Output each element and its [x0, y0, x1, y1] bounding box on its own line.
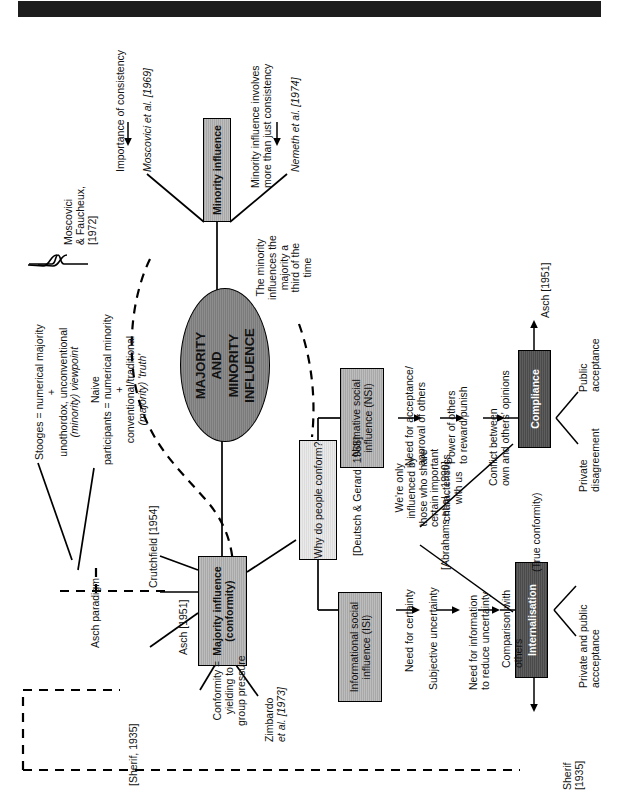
outcome-importance-of-consistency: Importance of consistency [115, 50, 127, 172]
citation-moscovici-1969: Moscovici et al. [1969] [142, 68, 154, 172]
note-stooges-definition: Stooges = numerical majority + unothordo… [34, 324, 81, 460]
note-abrahams-similarity: We're only influenced by those who share… [394, 449, 465, 527]
node-why-do-people-conform[interactable]: Why do people conform? [299, 440, 337, 560]
node-minority-influence-label: Minority influence [211, 125, 223, 215]
citation-crutchfield-1954: Crutchfield [1954] [148, 506, 160, 588]
node-why-conform-label: Why do people conform? [312, 442, 324, 559]
node-informational-social-influence[interactable]: Informational social influence (ISI) [338, 592, 382, 702]
node-internalisation-label: Internalisation [525, 584, 537, 656]
citation-sherif-1935-bottom: Sherif [1935] [562, 761, 586, 790]
isi-outcome-private-public-acceptance: Private and public accceptance [578, 605, 602, 688]
nsi-outcome-public-acceptance: Public acceptance [578, 338, 602, 392]
node-compliance-label: Compliance [528, 369, 540, 429]
isi-step-1: Need for certainty [404, 589, 416, 672]
node-isi-label: Informational social influence (ISI) [348, 602, 372, 692]
diagram-canvas: Minority influence MAJORITY AND MINORITY… [0, 0, 629, 806]
note-conformity-definition: Conformity = yielding to group pressure [212, 655, 247, 726]
label-true-conformity: (True conformity) [531, 492, 543, 572]
citation-deutsch-gerard-1955: [Deutsch & Gerard, 1955] [352, 437, 364, 556]
central-node-label: MAJORITY AND MINORITY INFLUENCE [192, 328, 257, 402]
note-naive-participants-definition: Naive participants = numerical minority … [90, 314, 149, 465]
node-compliance[interactable]: Compliance [518, 350, 551, 448]
isi-step-3: Need for information to reduce uncertain… [468, 592, 492, 690]
outcome-nemeth: Minority influence involves more than ju… [250, 64, 274, 188]
note-minority-third-of-time: The minority influences the majority a t… [255, 235, 314, 300]
citation-asch-1951-right: Asch [1951] [540, 263, 552, 318]
citation-moscovici-faucheux-1972: Moscovici & Faucheux, [1972] [63, 186, 98, 245]
nsi-step-3: Conflict between own and others' opinion… [488, 370, 512, 486]
isi-step-2: Subjective uncertainty [428, 587, 440, 690]
isi-step-4: Comparison with others [501, 590, 525, 668]
label-asch-paradigm: Asch paradigm [90, 578, 102, 648]
citation-zimbardo-1973: Zimbardo et al. [1973] [264, 687, 288, 742]
citation-abrahams-1990: [Abrahams et al., 1990] [440, 461, 452, 570]
citation-asch-1951-left: Asch [1951] [178, 600, 190, 655]
citation-sherif-1935-left: [Sherif, 1935] [128, 724, 140, 786]
citation-nemeth-1974: Nemeth et al. [1974] [290, 77, 302, 172]
node-majority-influence-label: Majority influence (conformity) [210, 566, 234, 655]
central-node-majority-and-minority-influence[interactable]: MAJORITY AND MINORITY INFLUENCE [180, 288, 270, 442]
node-minority-influence[interactable]: Minority influence [203, 118, 231, 222]
node-majority-influence[interactable]: Majority influence (conformity) [198, 556, 247, 666]
nsi-outcome-private-disagreement: Private disagreement [578, 428, 602, 492]
